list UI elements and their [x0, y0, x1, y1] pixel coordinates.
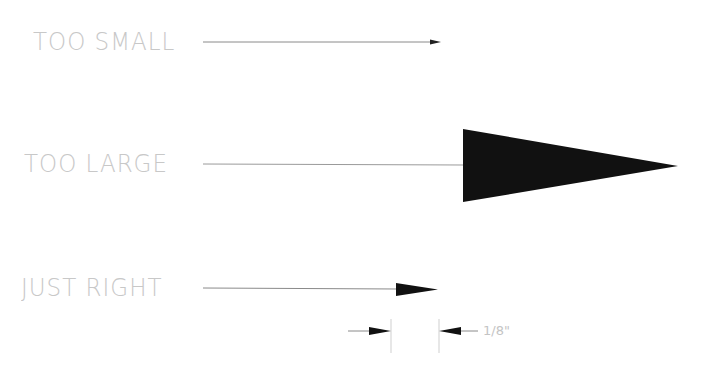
arrow-just-right [203, 283, 438, 296]
arrow-too-large [203, 129, 678, 202]
arrow-too-small [203, 40, 441, 45]
dimension-marker [348, 319, 478, 353]
arrow-diagram [0, 0, 713, 378]
dimension-label: 1/8" [483, 323, 510, 338]
